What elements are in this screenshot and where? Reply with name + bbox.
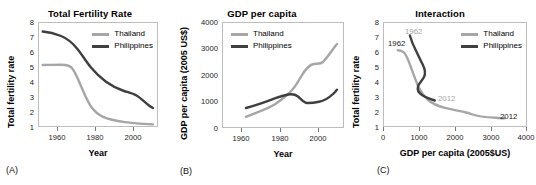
panel-c-annotation-thailand-2012: 2012 <box>500 112 517 121</box>
panel-b-xtick-1980: 1980 <box>267 134 293 143</box>
panel-c-title: Interaction <box>355 8 525 19</box>
panel-b-legend-label-philippines: Philippines <box>253 40 292 52</box>
panel-b-xtickmark-1980 <box>280 128 281 132</box>
panel-c-ytick-8: 8 <box>365 18 379 27</box>
panel-a-total-fertility-rate: Total Fertility Rate Total fertility rat… <box>0 0 180 185</box>
panel-c-xtickmark-2000 <box>455 127 456 131</box>
panel-c-y-axis-label: Total fertility rate <box>351 56 361 128</box>
panel-b-legend-item-philippines: Philippines <box>231 40 292 52</box>
panel-c-xtick-0: 0 <box>373 133 393 142</box>
panel-c-legend-item-thailand: Thailand <box>461 28 522 40</box>
panel-c-xtickmark-0 <box>383 127 384 131</box>
panel-c-xtickmark-1000 <box>419 127 420 131</box>
panel-a-ytick-4: 4 <box>20 78 34 87</box>
panel-c-legend: Thailand Philippines <box>461 28 522 52</box>
panel-c-ytick-7: 7 <box>365 33 379 42</box>
panel-a-ytick-2: 2 <box>20 108 34 117</box>
panel-b-ytick-1000: 1000 <box>190 97 218 106</box>
legend-swatch-philippines-icon <box>92 45 109 48</box>
panel-a-letter: (A) <box>6 165 18 175</box>
panel-b-plot-area: Thailand Philippines <box>222 22 344 128</box>
legend-swatch-philippines-icon <box>461 45 478 48</box>
panel-b-ytick-2000: 2000 <box>190 71 218 80</box>
panel-b-legend: Thailand Philippines <box>231 28 292 52</box>
panel-a-xtickmark-2000 <box>133 127 134 131</box>
panel-b-line-philippines <box>246 90 337 108</box>
panel-a-plot-area: Thailand Philippines <box>38 22 158 127</box>
panel-a-xtick-1980: 1980 <box>82 133 108 142</box>
panel-a-ytick-8: 8 <box>20 18 34 27</box>
panel-b-x-axis-label: Year <box>222 149 344 159</box>
panel-b-ytick-4000: 4000 <box>190 18 218 27</box>
panel-c-ytick-4: 4 <box>365 78 379 87</box>
panel-b-xtickmark-1960 <box>241 128 242 132</box>
panel-b-ytick-0: 0 <box>190 124 218 133</box>
panel-c-ytick-6: 6 <box>365 48 379 57</box>
panel-b-letter: (B) <box>180 166 192 176</box>
panel-a-ytick-7: 7 <box>20 33 34 42</box>
panel-b-line-thailand <box>246 44 337 117</box>
panel-b-xtickmark-2000 <box>318 128 319 132</box>
panel-c-xtick-4000: 4000 <box>513 133 536 142</box>
panel-a-xtickmark-1980 <box>95 127 96 131</box>
panel-c-annotation-philippines-1962: 1962 <box>388 39 405 48</box>
panel-b-y-axis-label: GDP per capita (2005 US$) <box>179 27 189 140</box>
panel-c-ytick-2: 2 <box>365 108 379 117</box>
panel-c-legend-label-philippines: Philippines <box>483 40 522 52</box>
panel-c-legend-item-philippines: Philippines <box>461 40 522 52</box>
legend-swatch-thailand-icon <box>92 33 109 36</box>
panel-c-letter: (C) <box>377 165 390 175</box>
panel-a-legend-item-philippines: Philippines <box>92 40 153 52</box>
legend-swatch-thailand-icon <box>231 33 248 36</box>
panel-a-ytick-6: 6 <box>20 48 34 57</box>
legend-swatch-thailand-icon <box>461 33 478 36</box>
panel-c-xtick-3000: 3000 <box>478 133 504 142</box>
panel-a-legend: Thailand Philippines <box>92 28 153 52</box>
panel-c-xtickmark-4000 <box>526 127 527 131</box>
panel-a-xtickmark-1960 <box>57 127 58 131</box>
panel-c-xtick-2000: 2000 <box>442 133 468 142</box>
panel-c-line-philippines <box>410 36 435 101</box>
panel-b-gdp-per-capita: GDP per capita GDP per capita (2005 US$)… <box>172 0 350 185</box>
panel-c-legend-label-thailand: Thailand <box>483 28 514 40</box>
panel-b-legend-item-thailand: Thailand <box>231 28 292 40</box>
panel-c-line-thailand <box>398 50 505 118</box>
panel-c-xtickmark-3000 <box>491 127 492 131</box>
figure-three-panel-chart: Total Fertility Rate Total fertility rat… <box>0 0 536 185</box>
panel-a-ytick-1: 1 <box>20 123 34 132</box>
panel-b-xtick-2000: 2000 <box>305 134 331 143</box>
panel-c-xtick-1000: 1000 <box>406 133 432 142</box>
panel-a-xtick-1960: 1960 <box>44 133 70 142</box>
panel-a-x-axis-label: Year <box>38 148 158 158</box>
panel-a-legend-label-thailand: Thailand <box>114 28 145 40</box>
panel-c-ytick-1: 1 <box>365 123 379 132</box>
panel-a-legend-label-philippines: Philippines <box>114 40 153 52</box>
panel-c-x-axis-label: GDP per capita (2005$US) <box>375 148 535 158</box>
panel-b-ytick-3000: 3000 <box>190 44 218 53</box>
panel-b-legend-label-thailand: Thailand <box>253 28 284 40</box>
panel-a-legend-item-thailand: Thailand <box>92 28 153 40</box>
panel-c-ytick-3: 3 <box>365 93 379 102</box>
panel-a-ytick-3: 3 <box>20 93 34 102</box>
panel-c-plot-area: Thailand Philippines 1962 1962 2012 2012 <box>383 22 527 127</box>
panel-a-xtick-2000: 2000 <box>120 133 146 142</box>
panel-c-interaction: Interaction Total fertility rate 8 7 6 5… <box>345 0 536 185</box>
panel-a-y-axis-label: Total fertility rate <box>6 56 16 128</box>
legend-swatch-philippines-icon <box>231 45 248 48</box>
panel-c-ytick-5: 5 <box>365 63 379 72</box>
panel-c-annotation-thailand-1962: 1962 <box>405 27 422 36</box>
panel-b-xtick-1960: 1960 <box>228 134 254 143</box>
panel-a-ytick-5: 5 <box>20 63 34 72</box>
panel-c-annotation-philippines-2012: 2012 <box>438 94 455 103</box>
